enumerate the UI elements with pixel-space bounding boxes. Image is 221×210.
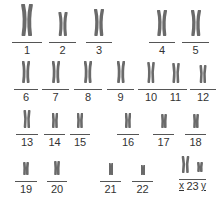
baseline xyxy=(47,181,67,182)
chromosome-label: 5 xyxy=(182,44,209,56)
baseline xyxy=(12,42,42,43)
chromosome-1: 1 xyxy=(12,7,42,43)
chromosome-label: 13 xyxy=(16,136,38,148)
chromosome-glyph-icon xyxy=(20,4,34,40)
chromosome-16: 16 xyxy=(117,116,139,135)
chromosome-18: 18 xyxy=(185,117,206,135)
chromosome-glyph-icon xyxy=(125,113,132,132)
chromosome-label: 1 xyxy=(12,44,42,56)
baseline xyxy=(86,42,112,43)
baseline xyxy=(49,42,76,43)
y-chromosome-icon xyxy=(197,158,203,176)
baseline xyxy=(15,181,37,182)
chromosome-glyph-icon xyxy=(147,62,156,87)
chromosome-10: 10 xyxy=(138,65,164,90)
baseline xyxy=(153,134,174,135)
chromosome-17: 17 xyxy=(153,117,174,135)
baseline xyxy=(185,134,206,135)
baseline xyxy=(100,181,121,182)
chromosome-label: 3 xyxy=(86,44,112,56)
baseline xyxy=(74,89,102,90)
chromosome-glyph-icon xyxy=(161,114,167,132)
chromosome-7: 7 xyxy=(42,64,69,90)
baseline xyxy=(117,134,139,135)
chromosome-label: 4 xyxy=(149,44,175,56)
chromosome-label: 18 xyxy=(185,136,206,148)
chromosome-15: 15 xyxy=(70,116,90,135)
chromosome-glyph-icon xyxy=(116,61,126,87)
chromosome-glyph-icon xyxy=(193,114,199,132)
chromosome-2: 2 xyxy=(49,15,76,43)
baseline xyxy=(182,42,209,43)
chromosome-glyph-icon xyxy=(108,161,113,179)
chromosome-label: 12 xyxy=(190,91,216,103)
chromosome-label: 14 xyxy=(44,136,65,148)
chromosome-label: 22 xyxy=(132,183,153,195)
chromosome-glyph-icon xyxy=(54,161,60,179)
chromosome-glyph-icon xyxy=(23,110,31,132)
chromosome-glyph-icon xyxy=(171,63,180,87)
chromosome-label: 9 xyxy=(107,91,134,103)
baseline xyxy=(149,42,175,43)
chromosome-glyph-icon xyxy=(21,61,31,87)
baseline xyxy=(164,89,187,90)
chromosome-glyph-icon xyxy=(23,161,29,179)
chromosome-glyph-icon xyxy=(199,65,207,87)
chromosome-label: 20 xyxy=(47,183,67,195)
chromosome-glyph-icon xyxy=(93,9,105,40)
chromosome-5: 5 xyxy=(182,13,209,43)
chromosome-4: 4 xyxy=(149,13,175,43)
chromosome-glyph-icon xyxy=(51,61,61,87)
baseline xyxy=(42,89,69,90)
chromosome-12: 12 xyxy=(190,68,216,90)
chromosome-9: 9 xyxy=(107,64,134,90)
chromosome-label: 11 xyxy=(164,91,187,103)
chromosome-22: 22 xyxy=(132,168,153,182)
chromosome-label: 8 xyxy=(74,91,102,103)
chromosome-glyph-icon xyxy=(77,113,84,132)
pair-number-label: 23 xyxy=(186,180,198,192)
baseline xyxy=(16,134,38,135)
sex-pair-label: x 23 y xyxy=(179,180,206,192)
chromosome-8: 8 xyxy=(74,64,102,90)
baseline xyxy=(44,134,65,135)
baseline xyxy=(107,89,134,90)
baseline xyxy=(132,181,153,182)
baseline xyxy=(190,89,216,90)
chromosome-19: 19 xyxy=(15,165,37,182)
chromosome-6: 6 xyxy=(14,64,38,90)
chromosome-glyph-icon xyxy=(57,12,68,40)
chromosome-20: 20 xyxy=(47,164,67,182)
chromosome-label: 16 xyxy=(117,136,139,148)
chromosome-14: 14 xyxy=(44,116,65,135)
chromosome-label: 7 xyxy=(42,91,69,103)
chromosome-23-sex-pair: x 23 y xyxy=(179,160,206,180)
y-label: y xyxy=(201,180,206,192)
chromosome-label: 19 xyxy=(15,183,37,195)
chromosome-3: 3 xyxy=(86,12,112,43)
chromosome-13: 13 xyxy=(16,113,38,135)
chromosome-11: 11 xyxy=(164,66,187,90)
chromosome-label: 21 xyxy=(100,183,121,195)
chromosome-21: 21 xyxy=(100,166,121,182)
chromosome-label: 17 xyxy=(153,136,174,148)
chromosome-glyph-icon xyxy=(140,161,145,179)
chromosome-label: 15 xyxy=(70,136,90,148)
x-chromosome-icon xyxy=(181,156,190,177)
baseline xyxy=(14,89,38,90)
chromosome-glyph-icon xyxy=(190,10,202,40)
chromosome-glyph-icon xyxy=(156,10,168,40)
chromosome-label: 10 xyxy=(138,91,164,103)
chromosome-label: 2 xyxy=(49,44,76,56)
baseline xyxy=(70,134,90,135)
chromosome-glyph-icon xyxy=(83,61,93,87)
chromosome-glyph-icon xyxy=(51,113,58,132)
baseline xyxy=(138,89,164,90)
x-label: x xyxy=(179,180,184,192)
chromosome-label: 6 xyxy=(14,91,38,103)
